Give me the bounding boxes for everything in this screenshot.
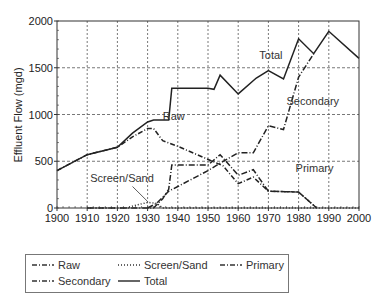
x-tick-label: 2000 (347, 212, 371, 224)
x-tick-label: 1980 (286, 212, 310, 224)
series-secondary (148, 54, 314, 208)
x-tick-label: 1960 (226, 212, 250, 224)
y-tick-label: 500 (35, 155, 53, 167)
series-screen-sand (87, 202, 359, 208)
dash-dot-line-icon (32, 262, 54, 268)
x-tick-label: 1910 (75, 212, 99, 224)
y-axis: 0500100015002000 (29, 15, 59, 214)
y-tick-label: 1000 (29, 109, 53, 121)
x-tick-label: 1930 (135, 212, 159, 224)
annotation-secondary: Secondary (287, 95, 340, 107)
x-tick-label: 1970 (256, 212, 280, 224)
x-tick-label: 1940 (166, 212, 190, 224)
annotation-total: Total (259, 49, 282, 61)
dotted-line-icon (118, 262, 140, 268)
dash-dot-line-icon (220, 262, 242, 268)
y-tick-label: 0 (47, 202, 53, 214)
solid-line-icon (118, 278, 140, 284)
y-tick-label: 2000 (29, 15, 53, 27)
legend-item-raw: Raw (32, 259, 80, 271)
x-tick-label: 1990 (317, 212, 341, 224)
effluent-flow-chart: 1900191019201930194019501960197019801990… (0, 0, 384, 250)
legend-item-primary: Primary (220, 259, 284, 271)
y-axis-label: Effluent Flow (mgd) (12, 67, 24, 162)
annotation-screen-sand: Screen/Sand (90, 172, 154, 184)
annotation-raw: Raw (163, 110, 185, 122)
y-tick-label: 1500 (29, 62, 53, 74)
legend-item-screen-sand: Screen/Sand (118, 259, 208, 271)
legend-item-secondary: Secondary (32, 275, 111, 287)
legend-item-total: Total (118, 275, 167, 287)
legend-label: Primary (246, 259, 284, 271)
legend-label: Screen/Sand (144, 259, 208, 271)
x-tick-label: 1950 (196, 212, 220, 224)
legend: Raw Screen/Sand Primary Secondary Total (25, 254, 289, 293)
legend-label: Raw (58, 259, 80, 271)
dash-dot-line-icon (32, 278, 54, 284)
x-tick-label: 1920 (105, 212, 129, 224)
annotation-primary: Primary (296, 162, 334, 174)
annotations: TotalSecondaryRawPrimaryScreen/Sand (90, 49, 339, 201)
series-raw (57, 129, 317, 209)
legend-label: Secondary (58, 275, 111, 287)
legend-label: Total (144, 275, 167, 287)
